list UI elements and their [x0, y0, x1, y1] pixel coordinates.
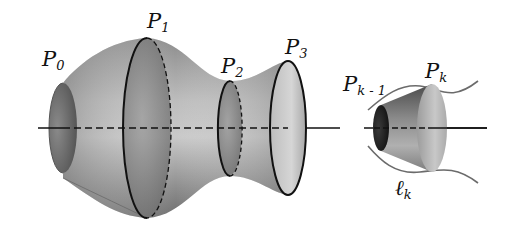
label-pk-minus-1: Pk - 1: [343, 74, 386, 97]
label-p1: P1: [147, 11, 169, 34]
surface-of-revolution-diagram: [0, 0, 509, 228]
label-p2: P2: [221, 56, 243, 79]
label-p0: P0: [42, 49, 64, 72]
label-lk: ℓk: [395, 178, 412, 201]
label-pk: Pk: [425, 61, 447, 84]
label-p3: P3: [285, 37, 307, 60]
